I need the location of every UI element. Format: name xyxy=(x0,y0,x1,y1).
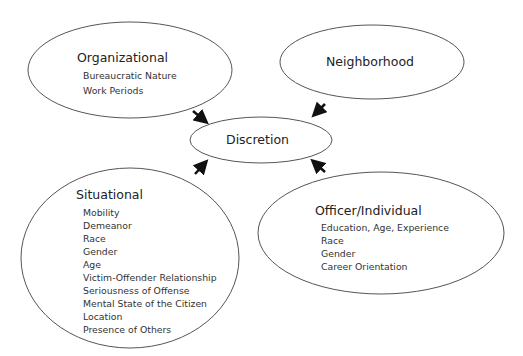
officer-title: Officer/Individual xyxy=(315,203,422,218)
arrow-officer-to-discretion xyxy=(314,162,325,172)
situational-item: Age xyxy=(83,259,101,270)
arrow-neighborhood-to-discretion xyxy=(315,104,325,114)
situational-item: Presence of Others xyxy=(83,324,171,335)
situational-item: Mobility xyxy=(83,207,120,218)
arrow-situational-to-discretion xyxy=(195,163,205,174)
situational-item: Gender xyxy=(83,246,117,257)
situational-item: Mental State of the Citizen xyxy=(83,298,207,309)
situational-item: Location xyxy=(83,311,122,322)
situational-item: Demeanor xyxy=(83,220,132,231)
organizational-item: Bureaucratic Nature xyxy=(83,70,177,81)
situational-title: Situational xyxy=(76,187,143,202)
organizational-title: Organizational xyxy=(77,50,168,65)
officer-item: Career Orientation xyxy=(321,261,408,272)
discretion-title: Discretion xyxy=(226,132,289,147)
officer-item: Education, Age, Experience xyxy=(321,222,449,233)
neighborhood-title: Neighborhood xyxy=(326,54,414,69)
arrow-organizational-to-discretion xyxy=(193,111,205,121)
situational-item: Victim-Offender Relationship xyxy=(83,272,217,283)
situational-item: Race xyxy=(83,233,106,244)
officer-item: Gender xyxy=(321,248,355,259)
organizational-item: Work Periods xyxy=(83,85,143,96)
situational-item: Seriousness of Offense xyxy=(83,285,190,296)
officer-item: Race xyxy=(321,235,344,246)
officer-ellipse xyxy=(258,172,504,294)
